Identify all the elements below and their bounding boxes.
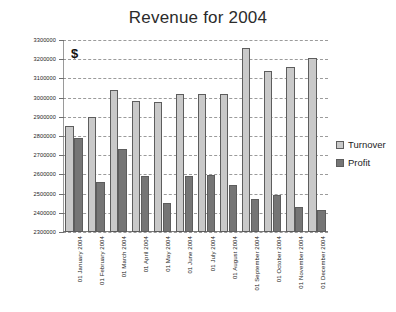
- legend-label: Turnover: [348, 139, 386, 150]
- bar-group: [132, 40, 149, 232]
- bar-group: [198, 40, 215, 232]
- y-axis-tick-label: 3000000: [34, 95, 56, 101]
- y-axis-tick-label: 3200000: [34, 56, 56, 62]
- bar-profit[interactable]: [273, 195, 281, 232]
- x-axis-tick-label: 01 July 2004: [210, 236, 216, 271]
- x-axis-tick-label: 01 March 2004: [121, 236, 127, 277]
- x-axis-tick-label: 01 January 2004: [77, 236, 83, 282]
- bar-group: [110, 40, 127, 232]
- bar-group: [88, 40, 105, 232]
- x-axis-tick-label: 01 February 2004: [99, 236, 105, 285]
- y-axis-tick-label: 3100000: [34, 75, 56, 81]
- bar-group: [65, 40, 82, 232]
- y-axis-tick-label: 2400000: [34, 210, 56, 216]
- y-axis-tick: [59, 155, 64, 156]
- x-axis-tick-label: 01 September 2004: [254, 236, 260, 290]
- bar-group: [264, 40, 281, 232]
- bar-profit[interactable]: [229, 185, 237, 232]
- bar-turnover[interactable]: [286, 67, 294, 232]
- bar-profit[interactable]: [251, 199, 259, 232]
- y-axis-tick-label: 2900000: [34, 114, 56, 120]
- bar-group: [176, 40, 193, 232]
- bar-profit[interactable]: [317, 210, 325, 232]
- y-axis-tick: [59, 232, 64, 233]
- bar-turnover[interactable]: [242, 48, 250, 232]
- legend-label: Profit: [348, 157, 370, 168]
- x-axis-tick-label: 01 April 2004: [143, 236, 149, 272]
- y-axis-tick-label: 2500000: [34, 191, 56, 197]
- y-axis-tick: [59, 59, 64, 60]
- y-axis-tick-label: 2800000: [34, 133, 56, 139]
- bar-turnover[interactable]: [65, 126, 73, 232]
- bar-profit[interactable]: [141, 176, 149, 232]
- x-axis-tick-label: 01 November 2004: [298, 236, 304, 289]
- bar-turnover[interactable]: [220, 94, 228, 232]
- legend-item[interactable]: Profit: [336, 157, 386, 168]
- bar-group: [242, 40, 259, 232]
- y-axis-tick-label: 2700000: [34, 152, 56, 158]
- x-axis-tick-label: 01 June 2004: [187, 236, 193, 274]
- chart-container: Revenue for 2004 $ 330000032000003100000…: [0, 0, 396, 312]
- plot-area: $ 33000003200000310000030000002900000280…: [63, 40, 328, 232]
- bar-group: [286, 40, 303, 232]
- bar-turnover[interactable]: [264, 71, 272, 232]
- bar-group: [154, 40, 171, 232]
- y-axis-tick: [59, 174, 64, 175]
- bar-turnover[interactable]: [176, 94, 184, 232]
- y-axis-tick: [59, 40, 64, 41]
- x-axis-tick-label: 01 December 2004: [320, 236, 326, 289]
- bar-profit[interactable]: [74, 138, 82, 232]
- bar-profit[interactable]: [163, 203, 171, 232]
- y-axis-tick-label: 2600000: [34, 171, 56, 177]
- y-axis-tick: [59, 213, 64, 214]
- bar-profit[interactable]: [295, 207, 303, 232]
- bar-profit[interactable]: [96, 182, 104, 232]
- bar-group: [308, 40, 325, 232]
- bar-turnover[interactable]: [198, 94, 206, 232]
- y-axis-tick-label: 3300000: [34, 37, 56, 43]
- bar-turnover[interactable]: [132, 101, 140, 232]
- bar-profit[interactable]: [185, 176, 193, 232]
- bar-profit[interactable]: [207, 175, 215, 232]
- bar-group: [220, 40, 237, 232]
- x-axis-tick-label: 01 May 2004: [165, 236, 171, 272]
- bar-turnover[interactable]: [88, 117, 96, 232]
- bar-turnover[interactable]: [110, 90, 118, 232]
- y-axis-tick: [59, 117, 64, 118]
- legend-swatch-icon: [336, 141, 344, 149]
- legend-item[interactable]: Turnover: [336, 139, 386, 150]
- y-axis-tick: [59, 78, 64, 79]
- y-axis-tick-label: 2300000: [34, 229, 56, 235]
- chart-title: Revenue for 2004: [0, 8, 396, 28]
- legend-swatch-icon: [336, 159, 344, 167]
- bar-turnover[interactable]: [308, 58, 316, 232]
- x-axis-tick-label: 01 October 2004: [276, 236, 282, 282]
- x-axis-tick-label: 01 August 2004: [232, 236, 238, 279]
- bar-profit[interactable]: [118, 149, 126, 232]
- y-axis-tick: [59, 98, 64, 99]
- gridline: [63, 232, 328, 233]
- chart-legend: TurnoverProfit: [336, 139, 386, 168]
- y-axis-tick: [59, 194, 64, 195]
- y-axis-tick: [59, 136, 64, 137]
- bar-turnover[interactable]: [154, 102, 162, 232]
